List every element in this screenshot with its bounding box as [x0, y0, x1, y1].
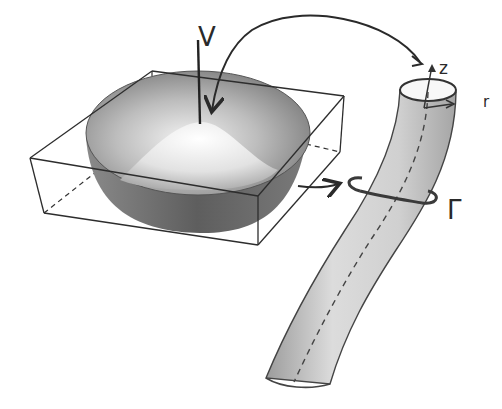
- label-gamma: Γ: [447, 195, 462, 225]
- z-arrow-head: [428, 64, 436, 72]
- label-z: z: [439, 58, 448, 78]
- label-r: r: [483, 93, 489, 111]
- diagram-canvas: [0, 0, 502, 409]
- arrow-bowl-to-ring: [298, 184, 338, 187]
- label-v: V: [198, 22, 215, 52]
